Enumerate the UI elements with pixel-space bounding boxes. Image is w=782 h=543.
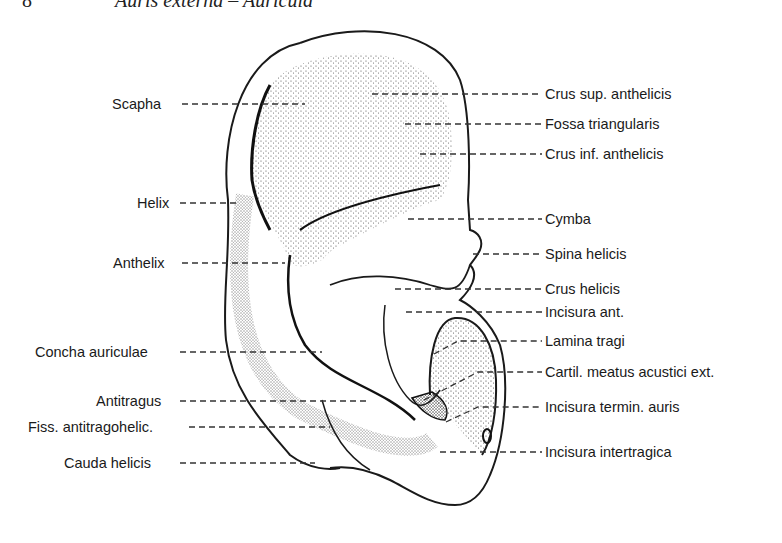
label-incisura-termin: Incisura termin. auris xyxy=(545,399,680,415)
label-crus-helicis: Crus helicis xyxy=(545,281,620,297)
label-incisura-ant: Incisura ant. xyxy=(545,304,624,320)
label-concha-auriculae: Concha auriculae xyxy=(35,344,148,360)
label-helix: Helix xyxy=(137,195,169,211)
label-crus-inf-anthelicis: Crus inf. anthelicis xyxy=(545,146,663,162)
label-cymba: Cymba xyxy=(545,211,591,227)
label-anthelix: Anthelix xyxy=(113,255,165,271)
label-scapha: Scapha xyxy=(112,96,161,112)
label-fiss-antitragohelic: Fiss. antitragohelic. xyxy=(28,419,153,435)
label-spina-helicis: Spina helicis xyxy=(545,246,626,262)
label-crus-sup-anthelicis: Crus sup. anthelicis xyxy=(545,86,672,102)
label-antitragus: Antitragus xyxy=(96,393,161,409)
label-lamina-tragi: Lamina tragi xyxy=(545,333,625,349)
label-fossa-triangularis: Fossa triangularis xyxy=(545,116,659,132)
label-incisura-intertragica: Incisura intertragica xyxy=(545,444,672,460)
label-cartil-meatus: Cartil. meatus acustici ext. xyxy=(545,364,714,380)
label-cauda-helicis: Cauda helicis xyxy=(64,455,151,471)
